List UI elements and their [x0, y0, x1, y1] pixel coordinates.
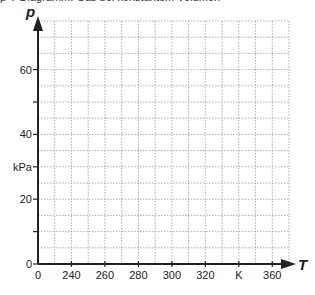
y-tick-label: 20 — [20, 193, 32, 205]
x-axis-title: T — [298, 256, 309, 273]
x-tick-label: 260 — [96, 269, 114, 281]
grid-lines — [38, 21, 289, 264]
axes — [33, 16, 296, 269]
y-tick-label: kPa — [13, 161, 33, 173]
p-T-chart: 0240260280300320K360020kPa4060 p T — [0, 0, 315, 295]
y-tick-label: 0 — [26, 258, 32, 270]
y-axis-title: p — [25, 3, 35, 20]
x-tick-label: 320 — [196, 269, 214, 281]
x-tick-label: 300 — [163, 269, 181, 281]
x-tick-label: K — [235, 269, 243, 281]
axis-ticks — [33, 70, 272, 267]
x-tick-label: 280 — [129, 269, 147, 281]
x-axis-arrow-icon — [281, 259, 296, 269]
x-tick-label: 0 — [35, 269, 41, 281]
y-tick-label: 60 — [20, 64, 32, 76]
tick-labels: 0240260280300320K360020kPa4060 — [13, 64, 281, 281]
x-tick-label: 240 — [62, 269, 80, 281]
y-tick-label: 40 — [20, 128, 32, 140]
x-tick-label: 360 — [263, 269, 281, 281]
